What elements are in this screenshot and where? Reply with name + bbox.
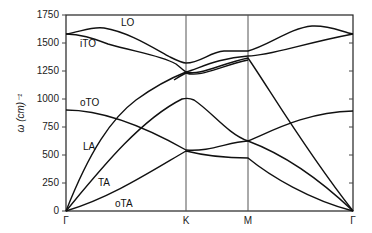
- y-tick-1750: 1750: [37, 9, 60, 20]
- label-la: LA: [83, 141, 96, 152]
- label-ta: TA: [98, 177, 110, 188]
- ito-branch: [66, 34, 353, 72]
- y-tick-1000: 1000: [37, 93, 60, 104]
- label-oto: oTO: [80, 97, 99, 108]
- x-tick-k: K: [183, 215, 190, 226]
- label-ito: iTO: [80, 38, 96, 49]
- x-axis-tick-labels: Γ K M Γ: [63, 215, 356, 226]
- y-tick-500: 500: [42, 149, 59, 160]
- y-axis-label: ω (cm)⁻¹: [15, 93, 26, 133]
- y-tick-1500: 1500: [37, 37, 60, 48]
- x-tick-gamma-right: Γ: [350, 215, 356, 226]
- label-lo: LO: [121, 17, 135, 28]
- x-tick-m: M: [244, 215, 252, 226]
- y-tick-1250: 1250: [37, 65, 60, 76]
- phonon-dispersion-chart: 0 250 500 750 1000 1250 1500 1750 ω (cm)…: [0, 0, 372, 233]
- label-ota: oTA: [115, 198, 133, 209]
- x-tick-gamma-left: Γ: [63, 215, 69, 226]
- y-tick-250: 250: [42, 177, 59, 188]
- y-tick-750: 750: [42, 121, 59, 132]
- y-tick-0: 0: [53, 205, 59, 216]
- la-branch: [66, 58, 353, 211]
- y-axis-tick-labels: 0 250 500 750 1000 1250 1500 1750: [37, 9, 60, 216]
- oto-branch: [66, 110, 353, 150]
- branch-labels: LO iTO oTO LA TA oTA: [80, 17, 135, 209]
